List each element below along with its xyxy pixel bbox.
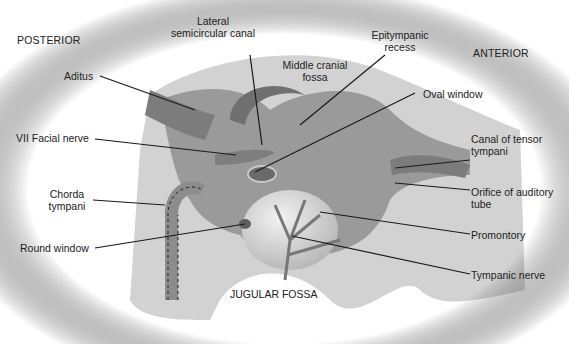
label-epitympanic-recess: Epitympanic recess <box>360 29 440 53</box>
label-line-1: Lateral <box>158 15 268 27</box>
posterior-label: POSTERIOR <box>17 34 81 46</box>
label-round-window: Round window <box>20 242 89 254</box>
label-line-1: Middle cranial <box>275 59 355 71</box>
label-promontory: Promontory <box>471 229 525 241</box>
label-chorda-tympani: Chorda tympani <box>42 188 92 212</box>
label-oval-window: Oval window <box>423 88 483 100</box>
label-aditus: Aditus <box>64 70 93 82</box>
label-line-1: Epitympanic <box>360 29 440 41</box>
label-canal-tensor-tympani: Canal of tensor tympani <box>471 133 542 157</box>
label-jugular-fossa: JUGULAR FOSSA <box>230 288 318 300</box>
label-line-1: Canal of tensor <box>471 133 542 145</box>
label-line-2: fossa <box>275 71 355 83</box>
label-line-1: Orifice of auditory <box>471 186 553 198</box>
label-lateral-semicircular-canal: Lateral semicircular canal <box>158 15 268 39</box>
label-orifice-auditory-tube: Orifice of auditory tube <box>471 186 553 210</box>
label-tympanic-nerve: Tympanic nerve <box>471 269 545 281</box>
label-line-2: recess <box>360 41 440 53</box>
label-line-2: tympani <box>42 200 92 212</box>
label-line-2: tympani <box>471 145 542 157</box>
label-line-1: Chorda <box>42 188 92 200</box>
label-facial-nerve: VII Facial nerve <box>16 132 89 144</box>
label-line-2: tube <box>471 198 553 210</box>
label-line-2: semicircular canal <box>158 27 268 39</box>
label-middle-cranial-fossa: Middle cranial fossa <box>275 59 355 83</box>
anterior-label: ANTERIOR <box>473 47 529 59</box>
